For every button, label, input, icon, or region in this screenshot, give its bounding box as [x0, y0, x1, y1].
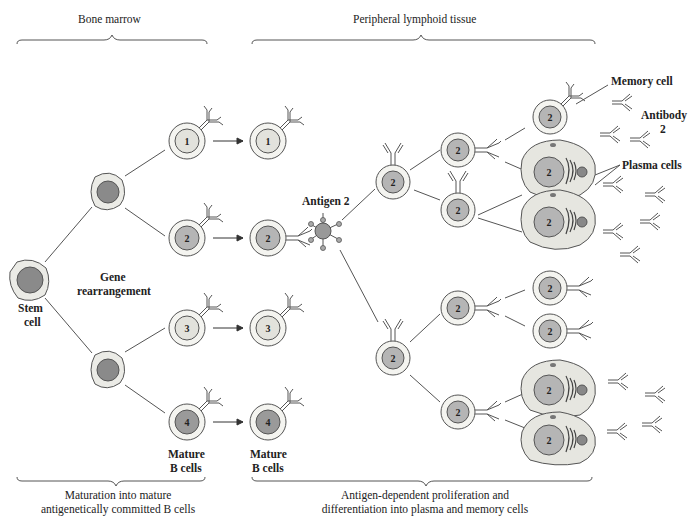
svg-text:2: 2 — [456, 145, 461, 156]
plasma-cell-5 — [521, 412, 595, 465]
svg-text:2: 2 — [266, 233, 271, 244]
clone-cell-upper — [376, 143, 410, 199]
bone-marrow-brace — [17, 35, 207, 44]
svg-text:2: 2 — [548, 283, 553, 294]
antigen-label: Antigen 2 — [302, 194, 350, 208]
maturation-brace — [17, 477, 205, 486]
stem-cell-label-line1: Stem — [18, 301, 43, 315]
clone-cell-g2-4 — [441, 395, 501, 429]
svg-text:4: 4 — [266, 417, 271, 428]
mature-b-cells-label-a2: B cells — [170, 461, 202, 475]
proliferation-caption-line2: differentiation into plasma and memory c… — [290, 502, 560, 516]
memory-cell-3 — [533, 314, 593, 348]
b-cell-3 — [169, 293, 223, 346]
clone-cell-g2-3 — [441, 291, 501, 325]
peripheral-brace — [252, 35, 595, 44]
svg-text:2: 2 — [391, 353, 396, 364]
svg-text:2: 2 — [456, 407, 461, 418]
antigen-particle — [309, 213, 342, 251]
gene-label-line1: Gene — [100, 270, 126, 284]
svg-text:2: 2 — [456, 303, 461, 314]
mature-b-cell-3 — [250, 293, 304, 346]
svg-text:2: 2 — [548, 112, 553, 123]
svg-text:4: 4 — [185, 417, 190, 428]
svg-text:2: 2 — [547, 217, 552, 228]
svg-text:2: 2 — [547, 435, 552, 446]
svg-text:2: 2 — [456, 205, 461, 216]
progenitor-cell-lower — [91, 351, 125, 388]
svg-text:1: 1 — [185, 136, 190, 147]
mature-b-cells-label-b2: B cells — [252, 461, 284, 475]
b-cell-maturation-diagram: 1 2 3 4 1 2 3 4 2 2 2 2 2 2 2 2 2 2 2 2 … — [0, 0, 699, 519]
svg-text:2: 2 — [391, 177, 396, 188]
svg-text:3: 3 — [266, 323, 271, 334]
stem-cell-label-line2: cell — [24, 315, 41, 329]
plasma-cell-4 — [521, 360, 595, 417]
progenitor-cell-upper — [91, 173, 125, 210]
svg-text:2: 2 — [547, 167, 552, 178]
svg-text:3: 3 — [185, 323, 190, 334]
stem-cell — [10, 260, 49, 300]
clone-cell-lower — [376, 319, 410, 375]
mature-b-cells-label-b1: Mature — [250, 447, 287, 461]
maturation-caption-line1: Maturation into mature — [28, 488, 208, 502]
b-cell-2 — [169, 203, 223, 256]
proliferation-caption-line1: Antigen-dependent proliferation and — [300, 488, 550, 502]
proliferation-brace — [252, 477, 592, 486]
svg-text:2: 2 — [547, 385, 552, 396]
arrows — [213, 138, 243, 425]
b-cell-4 — [169, 387, 223, 440]
plasma-cells-label: Plasma cells — [622, 158, 682, 172]
clone-cell-g2-1 — [441, 133, 501, 167]
maturation-caption-line2: antigenetically committed B cells — [18, 502, 218, 516]
free-antibodies — [600, 94, 665, 440]
svg-text:2: 2 — [548, 326, 553, 337]
svg-text:1: 1 — [266, 136, 271, 147]
svg-text:2: 2 — [185, 233, 190, 244]
peripheral-lymphoid-tissue-label: Peripheral lymphoid tissue — [353, 12, 476, 26]
mature-b-cell-4 — [250, 387, 304, 440]
b-cell-1 — [169, 106, 223, 159]
clone-cell-g2-2 — [441, 171, 475, 227]
mature-b-cells-label-a1: Mature — [168, 447, 205, 461]
memory-cell-label: Memory cell — [611, 74, 673, 88]
plasma-cell-3 — [521, 240, 595, 297]
antibody-label-line2: 2 — [660, 122, 666, 136]
mature-b-cell-1 — [250, 106, 304, 159]
memory-cell-1 — [533, 82, 585, 134]
bone-marrow-label: Bone marrow — [78, 12, 141, 26]
mature-b-cell-2 — [250, 220, 312, 256]
antibody-label-line1: Antibody — [641, 108, 687, 122]
gene-label-line2: rearrangement — [77, 284, 151, 298]
